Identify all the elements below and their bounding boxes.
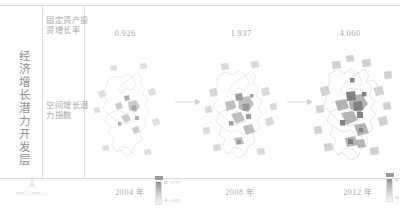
row-label-growth-potential-index: 空间增长潜力指数 <box>46 101 90 122</box>
panel-value-2012: 4.060 <box>320 28 380 38</box>
scale-bar-icon <box>16 192 48 196</box>
legend-break-high-2008: 高 : 0.801 <box>395 179 400 183</box>
legend-break-low-2004: 低 : 0.002 <box>164 200 180 204</box>
right-arrow-icon-2 <box>287 93 313 103</box>
svg-text:N: N <box>31 176 33 179</box>
row-label-investment-growth-rate: 固定资产投资增长率 <box>46 16 90 37</box>
right-arrow-icon-1 <box>175 93 201 103</box>
map-panel-2008: 高 : 0.801 低 : 0.003 <box>200 50 286 174</box>
figure-canvas: 经济增长潜力开发层 固定资产投资增长率 空间增长潜力指数 0.926 1.937… <box>0 0 400 212</box>
map-furniture: N <box>8 176 56 204</box>
bottom-divider <box>0 178 400 179</box>
year-label-2012: 2012 年 <box>318 186 398 197</box>
panel-value-2008: 1.937 <box>211 28 271 38</box>
map-shape-2004 <box>88 50 174 174</box>
layer-axis-label: 经济增长潜力开发层 <box>17 50 29 167</box>
map-panel-2012: 高 : 0.823 低 : 0.005 <box>312 50 398 174</box>
top-divider <box>0 5 400 6</box>
year-label-2004: 2004 年 <box>90 186 170 197</box>
map-shape-2008 <box>200 50 286 174</box>
panel-value-2004: 0.926 <box>95 28 155 38</box>
map-panel-2004: 高 : 0.791 低 : 0.002 <box>88 50 174 174</box>
legend-title-swatch-2004 <box>155 176 163 180</box>
left-column-divider <box>42 6 43 178</box>
map-shape-2012 <box>312 50 398 174</box>
year-label-2008: 2008 年 <box>200 186 280 197</box>
north-arrow-icon: N <box>29 176 35 188</box>
legend-break-low-2008: 低 : 0.003 <box>395 197 400 201</box>
